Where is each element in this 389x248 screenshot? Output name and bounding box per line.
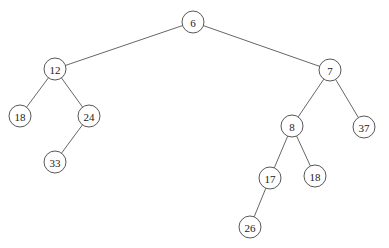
tree-edge xyxy=(336,79,359,117)
node-label: 18 xyxy=(15,111,27,123)
node-label: 6 xyxy=(190,17,196,29)
tree-edge xyxy=(62,125,83,153)
node-label: 8 xyxy=(289,121,295,133)
tree-node[interactable]: 7 xyxy=(319,59,341,81)
tree-node[interactable]: 8 xyxy=(281,115,303,137)
tree-node[interactable]: 37 xyxy=(353,116,375,138)
node-label: 24 xyxy=(84,111,96,123)
tree-node[interactable]: 26 xyxy=(239,216,261,238)
tree-node[interactable]: 18 xyxy=(9,105,31,127)
tree-canvas: 6127182483733171826 xyxy=(0,0,389,248)
tree-edge xyxy=(65,26,182,66)
node-label: 7 xyxy=(327,65,333,77)
tree-edge xyxy=(27,78,49,107)
tree-node[interactable]: 18 xyxy=(304,165,326,187)
tree-edge xyxy=(254,188,266,217)
edge-layer xyxy=(27,26,359,217)
tree-node[interactable]: 12 xyxy=(44,58,66,80)
tree-node[interactable]: 33 xyxy=(44,151,66,173)
tree-node[interactable]: 6 xyxy=(182,11,204,33)
node-label: 26 xyxy=(245,222,257,234)
tree-edge xyxy=(61,78,82,107)
tree-edge xyxy=(203,26,319,67)
node-layer: 6127182483733171826 xyxy=(9,11,375,238)
node-label: 12 xyxy=(50,64,61,76)
node-label: 33 xyxy=(50,157,62,169)
binary-tree-diagram: 6127182483733171826 xyxy=(0,0,389,248)
node-label: 17 xyxy=(265,173,277,185)
node-label: 37 xyxy=(359,122,371,134)
tree-edge xyxy=(298,79,324,117)
node-label: 18 xyxy=(310,171,322,183)
tree-node[interactable]: 17 xyxy=(259,167,281,189)
tree-node[interactable]: 24 xyxy=(78,105,100,127)
tree-edge xyxy=(297,136,311,166)
tree-edge xyxy=(274,136,287,168)
